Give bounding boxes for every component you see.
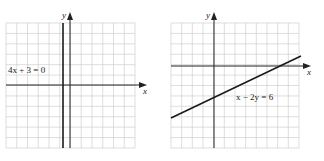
figure: 4x + 3 = 0 x y x − 2y = 6 x y [0,0,324,161]
left-equation-label: 4x + 3 = 0 [8,65,46,75]
left-y-arrow-icon [67,12,73,20]
right-chart: x − 2y = 6 x y [171,10,311,148]
right-x-axis-label: x [306,67,311,77]
left-chart: 4x + 3 = 0 x y [6,10,147,148]
right-equation-label: x − 2y = 6 [236,92,274,102]
left-y-axis-label: y [61,10,66,20]
right-grid [171,23,299,148]
left-x-axis-label: x [142,86,147,96]
right-y-axis-label: y [205,10,210,20]
right-graph-line [171,56,301,118]
right-y-arrow-icon [211,12,217,20]
